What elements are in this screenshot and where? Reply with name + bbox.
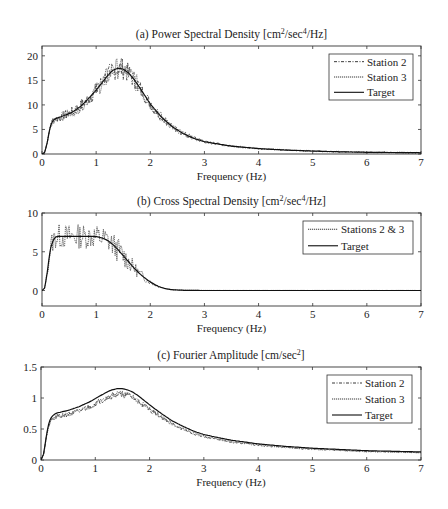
chart-panel-a: (a) Power Spectral Density [cm2/sec4/Hz]… <box>27 27 424 183</box>
x-tick-label: 6 <box>364 462 370 474</box>
x-tick-label: 5 <box>310 462 316 474</box>
y-tick-label: 20 <box>27 50 39 62</box>
x-tick-label: 0 <box>38 462 44 474</box>
y-tick-label: 0 <box>33 285 39 297</box>
legend-label: Target <box>341 240 369 252</box>
legend-label: Target <box>365 409 393 421</box>
x-tick-label: 5 <box>310 156 316 168</box>
x-tick-label: 6 <box>364 156 370 168</box>
y-tick-label: 10 <box>27 99 39 111</box>
y-tick-label: 1.5 <box>23 361 37 373</box>
y-tick-label: 10 <box>27 207 39 219</box>
x-tick-label: 3 <box>202 156 208 168</box>
chart-title: (a) Power Spectral Density [cm2/sec4/Hz] <box>136 27 327 41</box>
chart-panel-c: (c) Fourier Amplitude [cm/sec2]012345670… <box>23 348 424 489</box>
x-tick-label: 5 <box>310 308 316 320</box>
x-tick-label: 0 <box>39 308 45 320</box>
x-tick-label: 2 <box>148 156 154 168</box>
legend: Station 2Station 3Target <box>327 375 412 423</box>
x-tick-label: 6 <box>364 308 370 320</box>
x-tick-label: 3 <box>201 462 207 474</box>
legend-label: Stations 2 & 3 <box>341 223 405 235</box>
x-tick-label: 4 <box>256 308 262 320</box>
x-axis-label: Frequency (Hz) <box>196 476 266 489</box>
legend: Station 2Station 3Target <box>329 54 413 100</box>
legend-label: Target <box>367 86 395 98</box>
x-tick-label: 1 <box>93 462 99 474</box>
y-tick-label: 1 <box>32 392 38 404</box>
x-tick-label: 1 <box>93 308 99 320</box>
y-tick-label: 0 <box>33 148 39 160</box>
x-tick-label: 0 <box>39 156 45 168</box>
y-tick-label: 15 <box>27 74 39 86</box>
chart-title: (c) Fourier Amplitude [cm/sec2] <box>157 348 304 362</box>
y-tick-label: 0.5 <box>23 423 37 435</box>
x-axis-label: Frequency (Hz) <box>197 170 267 183</box>
x-axis-label: Frequency (Hz) <box>197 322 267 335</box>
chart-panel-b: (b) Cross Spectral Density [cm2/sec4/Hz]… <box>27 194 424 335</box>
y-tick-label: 5 <box>33 123 39 135</box>
legend-label: Station 3 <box>367 71 407 83</box>
y-tick-label: 5 <box>33 246 39 258</box>
x-tick-label: 7 <box>418 462 424 474</box>
x-tick-label: 2 <box>147 462 153 474</box>
x-tick-label: 4 <box>256 156 262 168</box>
y-tick-label: 0 <box>32 454 38 466</box>
x-tick-label: 2 <box>148 308 154 320</box>
legend: Stations 2 & 3Target <box>303 221 413 254</box>
chart-title: (b) Cross Spectral Density [cm2/sec4/Hz] <box>137 194 326 208</box>
figure: (a) Power Spectral Density [cm2/sec4/Hz]… <box>0 0 448 509</box>
x-tick-label: 7 <box>418 156 424 168</box>
legend-label: Station 2 <box>367 56 406 68</box>
legend-label: Station 2 <box>365 377 404 389</box>
legend-label: Station 3 <box>365 393 405 405</box>
x-tick-label: 1 <box>93 156 99 168</box>
x-tick-label: 4 <box>255 462 261 474</box>
x-tick-label: 3 <box>202 308 208 320</box>
x-tick-label: 7 <box>418 308 424 320</box>
